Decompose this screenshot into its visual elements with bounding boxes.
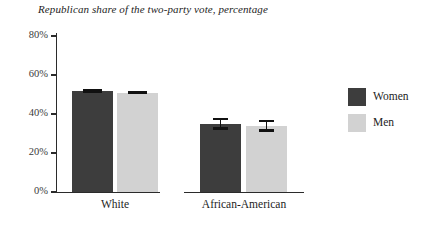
error-bar-cap-lower: [213, 127, 228, 129]
error-bar-cap-upper: [259, 120, 274, 122]
legend-label-men: Men: [373, 116, 394, 128]
bar-women-african-american: [200, 124, 241, 192]
legend-label-women: Women: [373, 90, 408, 102]
x-axis-baseline-white: [56, 192, 160, 193]
y-axis-tick: [51, 74, 56, 75]
bar-men-white: [117, 93, 158, 192]
y-axis-tick: [51, 35, 56, 36]
error-bar-cap-upper: [213, 118, 228, 120]
legend-swatch-men: [348, 114, 366, 132]
error-bar-cap-lower: [259, 129, 274, 131]
error-bar-cap-lower: [128, 92, 147, 94]
legend-swatch-women: [348, 88, 366, 106]
chart-figure: Republican share of the two-party vote, …: [0, 0, 434, 233]
y-axis-tick-label: 60%: [2, 69, 48, 80]
y-axis-tick-label-wrap: 0%: [0, 192, 48, 193]
y-axis-tick-label: 80%: [2, 30, 48, 41]
group-label-white: White: [45, 198, 185, 210]
error-bar-cap-lower: [83, 90, 102, 92]
chart-legend: WomenMen: [348, 86, 434, 138]
plot-area: 0%20%40%60%80% WhiteAfrican-American: [0, 0, 330, 233]
y-axis-line: [56, 33, 57, 193]
y-axis-tick: [51, 152, 56, 153]
bar-men-african-american: [246, 126, 287, 192]
y-axis-tick-label-wrap: 40%: [0, 114, 48, 115]
y-axis-tick-label: 0%: [2, 186, 48, 197]
error-bar-men-white: [117, 91, 158, 95]
y-axis-tick-label-wrap: 60%: [0, 75, 48, 76]
y-axis-tick-label-wrap: 20%: [0, 153, 48, 154]
y-axis-tick: [51, 113, 56, 114]
error-bar-women-white: [72, 89, 113, 93]
error-bar-women-african-american: [200, 118, 241, 130]
error-bar-men-african-american: [246, 120, 287, 132]
bar-women-white: [72, 91, 113, 192]
group-label-african-american: African-American: [174, 198, 314, 210]
y-axis-tick-label: 20%: [2, 147, 48, 158]
x-axis-baseline-african-american: [184, 192, 304, 193]
legend-item-men[interactable]: Men: [348, 112, 434, 138]
y-axis-tick: [51, 191, 56, 192]
y-axis-tick-label: 40%: [2, 108, 48, 119]
y-axis-tick-label-wrap: 80%: [0, 36, 48, 37]
legend-item-women[interactable]: Women: [348, 86, 434, 112]
